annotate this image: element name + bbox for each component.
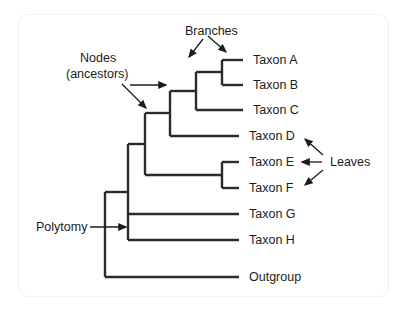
tip-label-taxon-a: Taxon A [253, 53, 297, 68]
arrow-leaves-to-taxon-f [305, 170, 323, 185]
arrow-branches-left [189, 39, 203, 57]
tip-label-taxon-e: Taxon E [249, 155, 294, 170]
tip-label-taxon-c: Taxon C [253, 103, 299, 118]
tip-label-taxon-h: Taxon H [249, 233, 295, 248]
annotation-label-branches: Branches [185, 24, 238, 39]
tree-branches [105, 60, 243, 277]
tip-label-taxon-d: Taxon D [249, 129, 295, 144]
tip-label-taxon-b: Taxon B [253, 78, 298, 93]
annotation-label-nodes: Nodes [80, 51, 116, 66]
annotation-label-leaves: Leaves [330, 155, 370, 170]
arrow-nodes-diagonal [122, 84, 146, 108]
arrow-leaves-to-taxon-d [305, 139, 323, 155]
phylogenetic-tree-figure: Taxon A Taxon B Taxon C Taxon D Taxon E … [0, 0, 407, 311]
tip-label-outgroup: Outgroup [249, 270, 301, 285]
tip-label-taxon-f: Taxon F [249, 181, 293, 196]
annotation-label-polytomy: Polytomy [36, 220, 87, 235]
annotation-label-ancestors: (ancestors) [66, 67, 129, 82]
tip-label-taxon-g: Taxon G [249, 207, 296, 222]
